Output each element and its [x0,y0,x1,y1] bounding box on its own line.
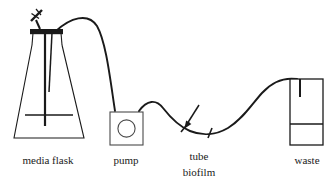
flask-inner-tube-secondary [49,33,52,92]
figure-canvas: media flask pump tube biofilm [0,0,333,187]
vent-clamp-icon [31,9,42,21]
biofilm-pointer-arrow [184,105,199,129]
pump-group: pump [110,112,143,166]
tube-biofilm-group: tube biofilm [181,105,216,178]
flask-neck-right-wall [61,33,62,45]
flask-vent-stub [36,20,40,29]
waste-label: waste [294,154,319,166]
biofilm-tick-mark-end [208,128,212,138]
waste-group: waste [290,79,323,166]
pump-box [110,112,143,145]
tube-flask-to-pump [56,18,115,111]
tube-biofilm-label-line1: tube [190,150,209,162]
flask-neck-left-wall [32,33,33,45]
waste-container-box [290,79,323,145]
pump-label: pump [113,154,139,166]
apparatus-schematic: media flask pump tube biofilm [0,0,333,187]
tube-pump-to-waste [139,79,297,135]
tube-biofilm-label-line2: biofilm [183,166,216,178]
media-flask-group: media flask [14,9,84,166]
media-flask-label: media flask [22,154,74,166]
